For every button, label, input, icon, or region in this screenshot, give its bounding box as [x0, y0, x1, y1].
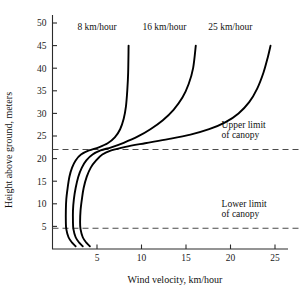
x-axis-title: Wind velocity, km/hour [128, 274, 223, 285]
curve-label-1: 16 km/hour [142, 22, 187, 32]
x-tick-label-15: 15 [181, 253, 191, 263]
y-tick-label-15: 15 [37, 177, 47, 187]
x-tick-label-5: 5 [95, 253, 100, 263]
y-axis-title: Height above ground, meters [3, 92, 14, 208]
y-tick-label-45: 45 [37, 41, 47, 51]
y-tick-label-50: 50 [37, 18, 47, 28]
y-axis-tick-labels: 5101520253035404550 [37, 18, 47, 231]
canopy-reference-labels: Upper limitof canopyLower limitof canopy [222, 120, 267, 219]
lower-limit-of-canopy-label-line1: Lower limit [222, 199, 267, 209]
y-tick-label-35: 35 [37, 86, 47, 96]
lower-limit-of-canopy-label-line2: of canopy [222, 209, 260, 219]
y-tick-label-20: 20 [37, 154, 47, 164]
wind-velocity-chart: 510152025 5101520253035404550 Upper limi… [0, 0, 307, 297]
y-tick-label-25: 25 [37, 131, 47, 141]
x-axis-tickmarks [97, 245, 275, 250]
y-axis-tickmarks [53, 23, 58, 226]
curve-label-2: 25 km/hour [208, 22, 253, 32]
y-tick-label-10: 10 [37, 199, 47, 209]
wind-profile-figure: 510152025 5101520253035404550 Upper limi… [0, 0, 307, 297]
y-tick-label-30: 30 [37, 109, 47, 119]
upper-limit-of-canopy-label-line2: of canopy [222, 130, 260, 140]
canopy-reference-lines [53, 150, 303, 229]
curve-label-0: 8 km/hour [77, 22, 117, 32]
x-tick-label-10: 10 [137, 253, 147, 263]
y-tick-label-5: 5 [42, 222, 47, 232]
curve-8-km-hour [66, 46, 129, 247]
wind-profile-curve-labels: 8 km/hour16 km/hour25 km/hour [77, 22, 253, 32]
x-tick-label-25: 25 [270, 253, 280, 263]
x-tick-label-20: 20 [226, 253, 236, 263]
y-tick-label-40: 40 [37, 64, 47, 74]
x-axis-tick-labels: 510152025 [95, 253, 280, 263]
